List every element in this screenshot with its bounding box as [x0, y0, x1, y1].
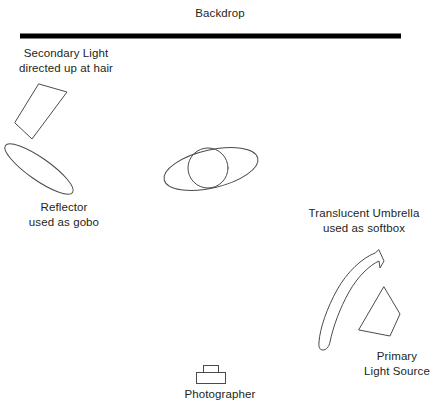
reflector-label-line2: used as gobo — [8, 215, 120, 230]
reflector-label: Reflector used as gobo — [8, 200, 120, 229]
primary-light-label-line2: Light Source — [355, 364, 439, 379]
backdrop-label-line1: Backdrop — [166, 6, 274, 21]
umbrella-arc-shape — [319, 250, 384, 350]
secondary-light-shape — [15, 84, 67, 139]
reflector-ellipse — [0, 136, 79, 201]
secondary-light-label-line1: Secondary Light — [2, 46, 130, 61]
umbrella-label-line1: Translucent Umbrella — [296, 206, 432, 221]
primary-light-shape — [359, 287, 400, 336]
subject-head-circle — [188, 148, 228, 188]
camera-viewfinder-icon — [204, 366, 219, 373]
reflector-label-line1: Reflector — [8, 200, 120, 215]
backdrop-label: Backdrop — [166, 6, 274, 21]
umbrella-label: Translucent Umbrella used as softbox — [296, 206, 432, 235]
camera-body-icon — [197, 373, 226, 384]
lighting-setup-diagram: Backdrop Secondary Light directed up at … — [0, 0, 440, 412]
photographer-label: Photographer — [162, 387, 278, 402]
primary-light-label-line1: Primary — [355, 349, 439, 364]
secondary-light-label: Secondary Light directed up at hair — [2, 46, 130, 75]
backdrop-bar — [20, 34, 401, 39]
primary-light-label: Primary Light Source — [355, 349, 439, 378]
photographer-label-line1: Photographer — [162, 387, 278, 402]
umbrella-label-line2: used as softbox — [296, 221, 432, 236]
secondary-light-label-line2: directed up at hair — [2, 61, 130, 76]
